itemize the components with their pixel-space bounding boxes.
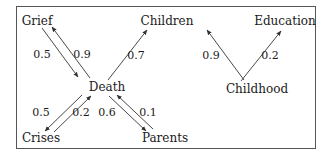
weight-death-to-crises: 0.5 xyxy=(32,107,50,119)
node-death: Death xyxy=(89,80,125,94)
weight-childhood-to-children: 0.9 xyxy=(202,50,220,62)
node-crises: Crises xyxy=(22,131,60,145)
node-education: Education xyxy=(254,14,316,28)
weight-childhood-to-education: 0.2 xyxy=(261,50,279,62)
weight-parents-to-death: 0.1 xyxy=(139,107,157,119)
diagram-canvas: Grief Children Education Death Childhood… xyxy=(0,0,334,157)
node-children: Children xyxy=(141,14,194,28)
node-childhood: Childhood xyxy=(226,82,288,96)
node-parents: Parents xyxy=(142,131,188,145)
weight-death-to-grief: 0.9 xyxy=(73,49,91,61)
weight-crises-to-death: 0.2 xyxy=(72,107,90,119)
weight-death-to-children: 0.7 xyxy=(127,50,145,62)
weight-grief-to-death: 0.5 xyxy=(33,49,51,61)
weight-death-to-parents: 0.6 xyxy=(98,107,116,119)
node-grief: Grief xyxy=(22,14,53,28)
